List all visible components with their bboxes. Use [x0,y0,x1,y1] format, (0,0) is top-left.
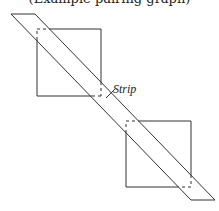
strip [11,14,215,200]
square-top [37,29,101,96]
square-bottom [126,121,191,187]
strip-diagram [0,0,219,211]
strip-label: Strip [113,82,136,97]
diagram-canvas: (Example pairing graph) [0,0,219,211]
